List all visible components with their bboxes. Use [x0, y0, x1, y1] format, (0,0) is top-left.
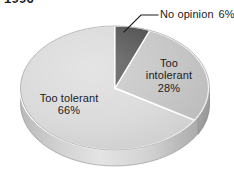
pie-label-too-intolerant-line1: Too [140, 57, 198, 69]
pie-label-too-tolerant: Too tolerant 66% [28, 92, 110, 117]
pie-label-too-intolerant-percent: 28% [140, 82, 198, 94]
pie-label-too-tolerant-percent: 66% [28, 104, 110, 116]
pie-chart-figure: 1996 [0, 0, 234, 173]
pie-label-too-tolerant-line1: Too tolerant [28, 92, 110, 104]
pie-label-no-opinion: No opinion6% [160, 8, 234, 20]
pie-chart-graphic [0, 0, 234, 173]
pie-label-no-opinion-percent: 6% [219, 8, 234, 20]
pie-label-too-intolerant: Too intolerant 28% [140, 57, 198, 94]
pie-label-too-intolerant-line2: intolerant [140, 69, 198, 81]
pie-label-no-opinion-text: No opinion [160, 8, 214, 20]
